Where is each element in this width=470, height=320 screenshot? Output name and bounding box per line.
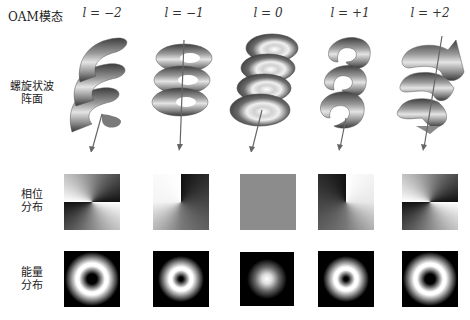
helical-wavefront-l-0: [228, 22, 308, 152]
row-label-line: 分布: [8, 279, 56, 292]
phase-map-l-0: [240, 174, 296, 230]
propagation-arrow-icon: [92, 114, 102, 150]
row-label-line: 螺旋状波: [6, 80, 58, 93]
row-label-line: 能量: [8, 266, 56, 279]
column-label-l-minus-1: l = −1: [164, 6, 203, 20]
row-label-energy: 能量 分布: [8, 266, 56, 292]
helical-wavefront-l-minus-1: [144, 22, 224, 152]
column-label-l-0: l = 0: [253, 6, 282, 20]
phase-map-l-plus-2: [402, 174, 458, 230]
intensity-map-l-plus-1: [318, 251, 374, 307]
intensity-map-l-minus-2: [64, 251, 120, 307]
row-label-line: 分布: [8, 201, 56, 214]
phase-map-l-plus-1: [318, 174, 374, 230]
intensity-map-l-plus-2: [402, 251, 458, 307]
column-label-l-minus-2: l = −2: [82, 6, 121, 20]
row-label-line: 阵面: [6, 93, 58, 106]
row-label-phase: 相位 分布: [8, 188, 56, 214]
helical-wavefront-l-plus-2: [390, 22, 470, 152]
phase-map-l-minus-1: [153, 174, 209, 230]
helical-wavefront-l-minus-2: [62, 22, 142, 152]
helical-wavefront-l-plus-1: [310, 22, 390, 152]
intensity-map-l-minus-1: [153, 251, 209, 307]
intensity-map-l-0: [240, 252, 294, 306]
row-label-helical-wavefront: 螺旋状波 阵面: [6, 80, 58, 106]
phase-map-l-minus-2: [64, 174, 120, 230]
figure-title: OAM模态: [8, 7, 63, 24]
row-label-line: 相位: [8, 188, 56, 201]
column-label-l-plus-1: l = +1: [330, 6, 369, 20]
column-label-l-plus-2: l = +2: [410, 6, 449, 20]
